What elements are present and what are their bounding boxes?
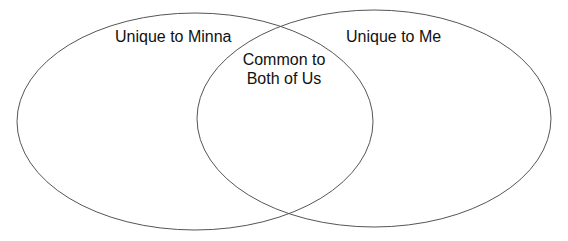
common-label: Common to Both of Us [240,50,328,88]
common-label-line1: Common to [240,50,328,69]
venn-diagram [0,0,568,241]
unique-to-minna-label: Unique to Minna [115,27,232,46]
unique-to-me-label: Unique to Me [346,27,441,46]
common-label-line2: Both of Us [240,69,328,88]
